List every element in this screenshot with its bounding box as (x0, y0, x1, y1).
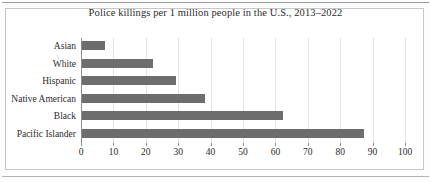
x-tick (243, 143, 244, 146)
category-label-asian: Asian (0, 38, 78, 56)
x-tick-label-60: 60 (271, 147, 281, 157)
x-tick (373, 143, 374, 146)
category-label-white: White (0, 56, 78, 74)
x-tick-label-20: 20 (141, 147, 151, 157)
plot-area (81, 38, 406, 143)
bar-row (82, 73, 406, 91)
bar-row (82, 91, 406, 109)
bar-white (82, 59, 153, 68)
category-label-native-american: Native American (0, 91, 78, 109)
bar-native-american (82, 94, 205, 103)
bar-row (82, 56, 406, 74)
category-label-black: Black (0, 108, 78, 126)
x-tick-label-30: 30 (173, 147, 183, 157)
x-tick-label-40: 40 (206, 147, 216, 157)
x-tick-label-10: 10 (109, 147, 119, 157)
x-tick (405, 143, 406, 146)
x-tick-label-90: 90 (368, 147, 378, 157)
bar-row (82, 38, 406, 56)
bar-black (82, 111, 283, 120)
x-tick (340, 143, 341, 146)
chart-page: Police killings per 1 million people in … (0, 0, 431, 182)
page-rule-top (2, 2, 429, 3)
x-tick-label-80: 80 (335, 147, 345, 157)
bar-row (82, 108, 406, 126)
category-label-hispanic: Hispanic (0, 73, 78, 91)
bar-asian (82, 41, 105, 50)
x-tick (211, 143, 212, 146)
x-tick-label-50: 50 (238, 147, 248, 157)
scan-artifact-mark: \ (57, 54, 59, 61)
x-tick-label-0: 0 (79, 147, 84, 157)
page-rule-bottom (2, 176, 429, 177)
category-label-pacific-islander: Pacific Islander (0, 126, 78, 144)
chart-title: Police killings per 1 million people in … (0, 7, 431, 18)
bar-row (82, 126, 406, 144)
y-axis-category-labels: AsianWhiteHispanicNative AmericanBlackPa… (0, 38, 78, 143)
x-tick (308, 143, 309, 146)
x-tick (113, 143, 114, 146)
bar-pacific-islander (82, 129, 364, 138)
x-tick-label-100: 100 (398, 147, 412, 157)
x-tick (81, 143, 82, 146)
x-tick (275, 143, 276, 146)
bar-series (82, 38, 406, 143)
x-axis-tick-labels: 0102030405060708090100 (81, 147, 406, 161)
bar-hispanic (82, 76, 176, 85)
x-tick (146, 143, 147, 146)
x-tick-label-70: 70 (303, 147, 313, 157)
x-tick (178, 143, 179, 146)
